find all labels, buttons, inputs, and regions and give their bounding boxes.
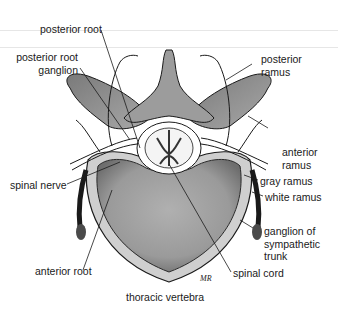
label-white-ramus: white ramus bbox=[265, 191, 322, 204]
label-spinal-nerve: spinal nerve bbox=[10, 179, 67, 192]
label-ganglion-line2: sympathetic bbox=[264, 238, 320, 251]
label-ganglion-line3: trunk bbox=[264, 250, 320, 263]
label-spinal-cord: spinal cord bbox=[233, 267, 284, 280]
spinous-process bbox=[124, 50, 214, 122]
label-posterior-ramus-line1: posterior bbox=[261, 53, 302, 66]
left-sympathetic-trunk bbox=[76, 170, 86, 240]
label-anterior-root: anterior root bbox=[35, 265, 92, 278]
artist-mark: MR bbox=[199, 274, 212, 283]
label-posterior-ramus-line2: ramus bbox=[261, 66, 302, 79]
label-ganglion-sympathetic-trunk: ganglion of sympathetic trunk bbox=[264, 225, 320, 263]
label-posterior-root: posterior root bbox=[40, 23, 102, 36]
label-anterior-ramus-line1: anterior bbox=[282, 146, 318, 159]
label-posterior-root-ganglion: posterior root ganglion bbox=[14, 51, 78, 76]
label-posterior-root-ganglion-line1: posterior root bbox=[14, 51, 78, 64]
label-posterior-root-ganglion-line2: ganglion bbox=[14, 64, 78, 77]
spinal-cord-drawing bbox=[137, 122, 201, 174]
label-anterior-ramus-line2: ramus bbox=[282, 159, 318, 172]
label-anterior-ramus: anterior ramus bbox=[282, 146, 318, 171]
label-ganglion-line1: ganglion of bbox=[264, 225, 320, 238]
label-posterior-ramus: posterior ramus bbox=[261, 53, 302, 78]
diagram-caption: thoracic vertebra bbox=[126, 291, 204, 304]
label-gray-ramus: gray ramus bbox=[260, 175, 313, 188]
